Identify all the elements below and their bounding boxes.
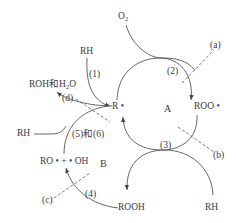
step-1-label: (1) <box>89 70 100 80</box>
species-o2: O2 <box>118 12 128 23</box>
rh-to-rooh-curve <box>127 150 213 195</box>
cycle-b-label: B <box>100 159 107 169</box>
species-rh-bottom: RH <box>205 203 218 213</box>
cycle-a-label: A <box>164 104 171 114</box>
callout-line-b <box>178 127 214 152</box>
step-2-label: (2) <box>167 67 178 77</box>
species-roh-h2o: ROH和H2O <box>29 80 76 91</box>
callout-a: (a) <box>210 41 221 51</box>
step-3-label: (3) <box>160 141 171 151</box>
callout-d: (d) <box>62 94 73 104</box>
species-rh-left: RH <box>17 129 30 139</box>
step-4-label: (4) <box>85 190 96 200</box>
callout-b: (b) <box>213 151 224 161</box>
callout-line-d <box>76 99 110 122</box>
species-rh-top: RH <box>80 47 93 57</box>
species-ro-oh: RO • + • OH <box>40 157 88 167</box>
species-r-radical: R • <box>112 102 124 112</box>
species-rooh: ROOH <box>118 203 145 213</box>
callout-c: (c) <box>42 196 53 206</box>
cycle-a-upper-arc <box>117 58 191 100</box>
rh-left-line <box>34 126 66 134</box>
rooh-to-ro-oh-curve <box>66 168 118 208</box>
rh-top-to-r-curve <box>87 58 110 106</box>
step-56-label: (5)和(6) <box>72 130 104 140</box>
callout-line-a <box>182 50 214 83</box>
species-roo-radical: ROO • <box>194 102 220 112</box>
reaction-diagram <box>0 0 236 223</box>
o2-incoming-curve <box>126 25 195 70</box>
